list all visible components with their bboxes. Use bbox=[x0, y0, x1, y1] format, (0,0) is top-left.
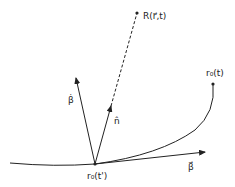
current-position-label: r₀(t) bbox=[206, 68, 224, 78]
beta-dot-label: β̇ bbox=[68, 94, 74, 105]
beta-dot-arrow bbox=[76, 78, 95, 164]
observer-point bbox=[135, 11, 138, 14]
retarded-position-point bbox=[93, 162, 96, 165]
beta-label: β⃗ bbox=[188, 161, 194, 172]
retarded-position-label: r₀(t') bbox=[87, 171, 107, 181]
current-position-point bbox=[211, 82, 214, 85]
unit-normal-label: n̂ bbox=[114, 116, 120, 126]
unit-normal-arrow bbox=[95, 106, 111, 164]
retarded-potential-diagram: R(r⃗,t) r₀(t') r₀(t) β̇ n̂ β⃗ bbox=[0, 0, 235, 187]
observer-label: R(r⃗,t) bbox=[143, 11, 166, 21]
particle-trajectory bbox=[10, 84, 213, 165]
line-of-sight-dashed bbox=[111, 13, 137, 106]
